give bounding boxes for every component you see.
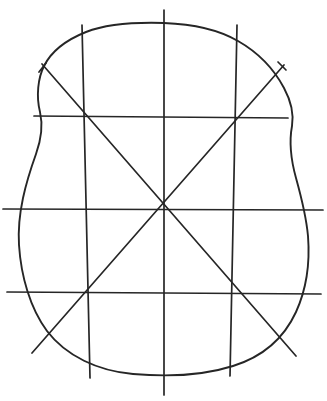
drawing-canvas	[0, 0, 327, 401]
vertical-line-right	[230, 25, 237, 376]
figure-svg	[0, 0, 327, 401]
vertical-line-left	[82, 25, 90, 378]
horizontal-line-upper	[34, 116, 288, 118]
tick-diagonal-ne-start	[278, 62, 286, 70]
horizontal-line-center	[3, 209, 323, 210]
